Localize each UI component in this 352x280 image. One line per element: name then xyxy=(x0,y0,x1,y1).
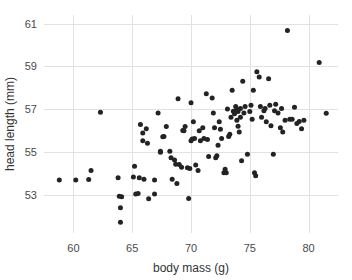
data-point xyxy=(238,115,243,120)
data-point xyxy=(279,106,284,111)
data-point xyxy=(196,168,201,173)
data-point xyxy=(174,181,179,186)
y-tick-label: 57 xyxy=(25,103,37,115)
data-point xyxy=(239,158,244,163)
data-point xyxy=(156,110,161,115)
vertical-gridlines xyxy=(74,15,310,233)
data-point xyxy=(206,154,211,159)
data-point xyxy=(164,124,169,129)
data-point xyxy=(224,170,229,175)
data-point xyxy=(240,79,245,84)
data-point xyxy=(187,166,192,171)
data-point xyxy=(138,122,143,127)
data-point xyxy=(280,130,285,135)
data-point xyxy=(257,74,262,79)
data-point xyxy=(271,152,276,157)
data-point xyxy=(192,136,197,141)
data-point xyxy=(189,100,194,105)
data-point xyxy=(57,178,62,183)
x-tick-label: 75 xyxy=(244,242,256,254)
data-point xyxy=(136,191,141,196)
data-point xyxy=(276,110,281,115)
data-point xyxy=(254,69,259,74)
data-point xyxy=(118,205,123,210)
data-point xyxy=(137,175,142,180)
x-axis-tick-labels: 6065707580 xyxy=(67,242,314,254)
data-point xyxy=(118,220,123,225)
data-point xyxy=(219,136,224,141)
data-point xyxy=(253,173,258,178)
data-point xyxy=(116,175,121,180)
data-point xyxy=(283,118,288,123)
data-point xyxy=(132,164,137,169)
data-point xyxy=(247,109,252,114)
data-point xyxy=(89,168,94,173)
data-point xyxy=(167,149,172,154)
y-axis-title: head length (mm) xyxy=(3,77,17,171)
data-point xyxy=(146,196,151,201)
data-point xyxy=(200,125,205,130)
data-point xyxy=(158,149,163,154)
data-point xyxy=(248,103,253,108)
x-tick-label: 80 xyxy=(302,242,314,254)
data-point xyxy=(268,123,273,128)
data-point xyxy=(278,125,283,130)
y-tick-label: 55 xyxy=(25,146,37,158)
data-point xyxy=(211,110,216,115)
y-tick-label: 53 xyxy=(25,189,37,201)
data-point xyxy=(250,117,255,122)
data-point xyxy=(301,118,306,123)
data-point xyxy=(317,60,322,65)
data-point xyxy=(251,88,256,93)
x-tick-label: 70 xyxy=(185,242,197,254)
data-point xyxy=(258,104,263,109)
data-point xyxy=(230,88,235,93)
data-point xyxy=(183,124,188,129)
data-point xyxy=(193,163,198,168)
data-point xyxy=(217,119,222,124)
data-point xyxy=(241,110,246,115)
data-point xyxy=(119,194,124,199)
scatter-plot-figure: 5355575961 6065707580 body mass (g) head… xyxy=(0,0,352,280)
data-point xyxy=(290,117,295,122)
data-point xyxy=(161,134,166,139)
data-point xyxy=(186,196,191,201)
data-point xyxy=(292,105,297,110)
data-point xyxy=(266,76,271,81)
data-point xyxy=(216,143,221,148)
data-point xyxy=(236,124,241,129)
data-point xyxy=(214,153,219,158)
data-point xyxy=(176,96,181,101)
data-point xyxy=(225,107,230,112)
data-point xyxy=(259,115,264,120)
y-tick-label: 61 xyxy=(25,18,37,30)
data-point xyxy=(179,165,184,170)
data-point xyxy=(141,177,146,182)
data-point xyxy=(243,104,248,109)
data-point xyxy=(264,119,269,124)
data-point xyxy=(172,157,177,162)
data-point xyxy=(144,126,149,131)
data-point xyxy=(140,130,145,135)
data-point xyxy=(86,177,91,182)
data-point xyxy=(145,141,150,146)
data-point xyxy=(191,119,196,124)
data-point xyxy=(263,106,268,111)
data-point xyxy=(273,102,278,107)
x-tick-label: 60 xyxy=(67,242,79,254)
data-point xyxy=(152,192,157,197)
x-tick-label: 65 xyxy=(126,242,138,254)
data-point xyxy=(181,128,186,133)
y-axis-tick-labels: 5355575961 xyxy=(25,18,37,201)
data-point xyxy=(238,106,243,111)
data-point xyxy=(204,91,209,96)
data-point xyxy=(152,178,157,183)
data-point xyxy=(170,177,175,182)
x-axis-title: body mass (g) xyxy=(153,261,229,275)
data-point xyxy=(227,132,232,137)
data-point xyxy=(218,127,223,132)
data-point xyxy=(205,137,210,142)
data-point xyxy=(210,95,215,100)
data-point xyxy=(237,130,242,135)
data-point xyxy=(73,178,78,183)
